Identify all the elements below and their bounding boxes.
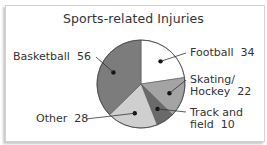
label-football: Football 34: [190, 47, 255, 59]
label-skating-value: 22: [237, 85, 251, 98]
label-basketball-value: 56: [77, 50, 91, 63]
pie-slices: [97, 40, 185, 128]
label-skating-name-2: Hockey: [190, 85, 230, 98]
label-track-name-2: field: [190, 118, 214, 131]
label-basketball: Basketball 56: [13, 51, 91, 63]
label-other-value: 28: [74, 112, 88, 125]
label-track: Track and field 10: [190, 107, 243, 131]
label-other: Other 28: [36, 113, 88, 125]
pie-slice-football: [141, 40, 185, 84]
label-football-name: Football: [190, 46, 234, 59]
label-other-name: Other: [36, 112, 67, 125]
label-football-value: 34: [241, 46, 255, 59]
label-basketball-name: Basketball: [13, 50, 70, 63]
label-skating: Skating/ Hockey 22: [190, 74, 251, 98]
label-track-value: 10: [221, 118, 235, 131]
